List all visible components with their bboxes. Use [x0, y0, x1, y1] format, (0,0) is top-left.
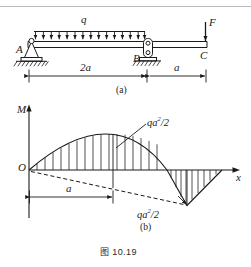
y-axis-arrowhead	[26, 105, 31, 112]
point-c-label: C	[200, 50, 207, 61]
support-a-label: A	[16, 44, 23, 55]
moment-axis-label: M	[17, 104, 26, 115]
positive-moment-curve	[29, 134, 167, 170]
peak-moment-label: qa2/2	[147, 116, 169, 128]
engineering-diagram-svg	[0, 0, 251, 267]
peak-moment-num: qa	[147, 117, 158, 128]
point-force-label: F	[209, 17, 216, 28]
x-axis-label: x	[236, 172, 241, 183]
distributed-load-label: q	[81, 14, 87, 25]
figure-caption: 图 10.19	[100, 245, 137, 258]
ground-hatch-a	[14, 61, 49, 66]
dimension-2a-label: 2a	[80, 62, 91, 73]
min-moment-num: qa	[137, 209, 148, 220]
distributed-load-arrows	[36, 32, 145, 40]
dimension-a-moment-label: a	[66, 183, 72, 194]
min-moment-label: qa2/2	[137, 208, 159, 220]
dashed-reference-chord	[31, 172, 186, 206]
beam-assembly	[14, 22, 207, 83]
subfigure-a-caption: (a)	[116, 85, 127, 95]
dimension-a-beam-label: a	[174, 62, 180, 73]
min-moment-denominator: /2	[151, 209, 159, 220]
moment-diagram	[26, 105, 240, 219]
support-b-label: B	[133, 53, 140, 64]
figure-container: q F A B C 2a a (a) M x O qa2/2 qa2/2 a (…	[0, 0, 251, 267]
peak-moment-denominator: /2	[161, 117, 169, 128]
origin-label: O	[18, 162, 26, 173]
subfigure-b-caption: (b)	[140, 222, 151, 232]
positive-moment-hatch	[37, 134, 157, 170]
negative-moment-curve	[167, 170, 222, 206]
